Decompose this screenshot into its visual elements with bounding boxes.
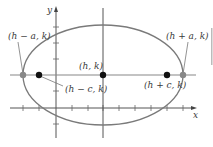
y-axis-arrow-icon <box>54 6 58 12</box>
focus-right-label: (h + c, k) <box>144 80 187 90</box>
focus-left-label: (h − c, k) <box>65 84 108 94</box>
vertex-left-label: (h − a, k) <box>8 31 51 41</box>
vertex-right-label: (h + a, k) <box>166 31 209 41</box>
leader-vertex-left <box>18 42 23 74</box>
leader-focus-left <box>40 76 63 86</box>
vertex-right-point <box>180 72 186 78</box>
y-axis <box>53 6 59 138</box>
focus-right-point <box>164 72 170 78</box>
vertex-left-point <box>20 72 26 78</box>
ellipse-diagram: y x (h − a, k) (h + a, k) (h, k) (h − c,… <box>0 0 213 147</box>
leader-vertex-right <box>183 42 188 74</box>
center-label: (h, k) <box>79 61 103 71</box>
y-axis-label: y <box>46 5 53 15</box>
x-axis-label: x <box>193 110 198 120</box>
edge-divider <box>211 28 213 65</box>
focus-left-point <box>36 72 42 78</box>
center-point <box>100 72 106 78</box>
